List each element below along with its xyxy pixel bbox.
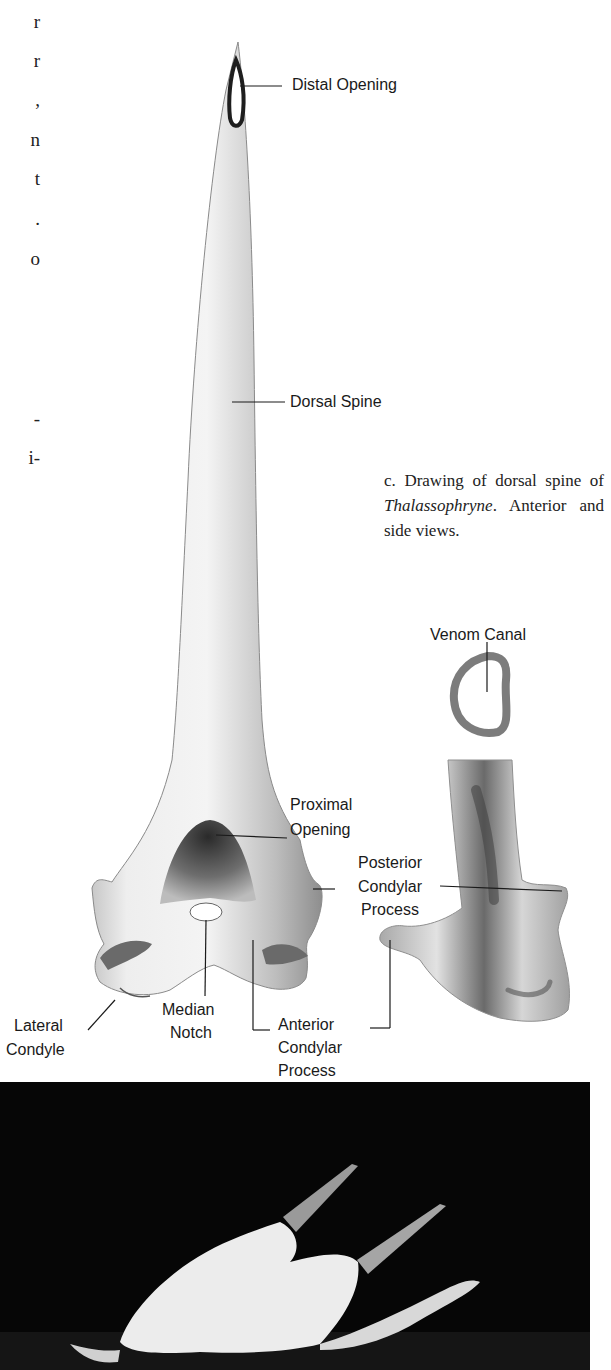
label-dorsal-spine: Dorsal Spine	[290, 392, 382, 412]
label-proximal-opening-line1: Proximal	[290, 795, 352, 815]
label-venom-canal: Venom Canal	[430, 625, 526, 645]
specimen-photo	[0, 1082, 590, 1370]
caption-genus: Thalassophryne	[384, 496, 493, 515]
label-lateral-condyle-line1: Lateral	[14, 1016, 63, 1036]
label-anterior-condylar-line3: Process	[278, 1061, 336, 1081]
label-posterior-condylar-line3: Process	[347, 900, 433, 920]
label-anterior-condylar-line2: Condylar	[278, 1038, 342, 1058]
specimen-photo-graphic	[0, 1082, 590, 1370]
label-median-notch-line2: Notch	[170, 1023, 212, 1043]
label-median-notch-line1: Median	[162, 1000, 214, 1020]
label-posterior-condylar-line2: Condylar	[347, 877, 433, 897]
caption-text-before: Drawing of dorsal spine of	[404, 471, 604, 490]
anterior-view	[92, 42, 322, 997]
figure-caption: c. Drawing of dorsal spine of Thalassoph…	[384, 468, 604, 543]
label-proximal-opening-line2: Opening	[290, 820, 351, 840]
label-posterior-condylar-line1: Posterior	[347, 853, 433, 873]
caption-letter: c.	[384, 471, 396, 490]
label-anterior-condylar-line1: Anterior	[278, 1015, 334, 1035]
venom-canal-cross-section	[454, 656, 507, 733]
label-distal-opening: Distal Opening	[292, 75, 397, 95]
label-lateral-condyle-line2: Condyle	[6, 1040, 65, 1060]
